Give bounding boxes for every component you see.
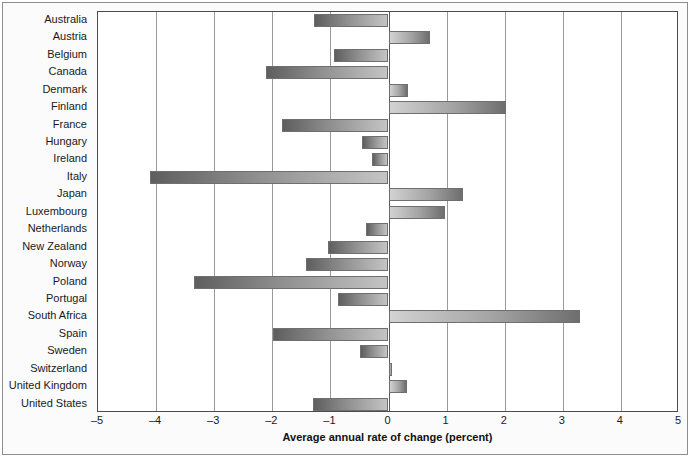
category-label-denmark: Denmark [42,81,87,98]
x-tick-label-5: 5 [658,414,692,426]
bar-south-africa [389,310,580,323]
bar-france [282,119,388,132]
bar-row [98,82,677,99]
category-label-finland: Finland [51,98,87,115]
bar-luxembourg [389,206,446,219]
plot-area [97,11,678,412]
category-label-portugal: Portugal [46,290,87,307]
category-label-australia: Australia [44,11,87,28]
category-label-japan: Japan [57,185,87,202]
x-tick-label--5: –5 [77,414,117,426]
category-label-switzerland: Switzerland [30,360,87,377]
bar-row [98,99,677,116]
bar-spain [273,328,389,341]
bar-row [98,47,677,64]
bar-row [98,396,677,413]
bar-finland [389,101,507,114]
bar-ireland [372,153,389,166]
x-tick-label--2: –2 [251,414,291,426]
category-axis-labels: AustraliaAustriaBelgiumCanadaDenmarkFinl… [0,11,93,412]
bar-row [98,291,677,308]
category-label-italy: Italy [67,168,87,185]
bar-row [98,274,677,291]
x-axis-title: Average annual rate of change (percent) [97,431,678,443]
bar-austria [389,31,430,44]
bar-row [98,308,677,325]
bar-row [98,29,677,46]
x-tick-label--1: –1 [309,414,349,426]
category-label-france: France [53,116,87,133]
bar-row [98,239,677,256]
bar-series [98,12,677,411]
bar-sweden [360,345,388,358]
bar-poland [194,276,388,289]
bar-row [98,221,677,238]
category-label-netherlands: Netherlands [28,220,87,237]
bar-australia [314,14,388,27]
bar-canada [266,66,389,79]
bar-belgium [334,49,389,62]
category-label-new-zealand: New Zealand [22,238,87,255]
x-tick-label-2: 2 [484,414,524,426]
bar-netherlands [366,223,389,236]
x-tick-label--3: –3 [193,414,233,426]
x-tick-label--4: –4 [135,414,175,426]
category-label-sweden: Sweden [47,342,87,359]
bar-row [98,134,677,151]
bar-switzerland [389,363,392,376]
category-label-austria: Austria [53,28,87,45]
bar-new-zealand [328,241,388,254]
bar-row [98,117,677,134]
category-label-united-kingdom: United Kingdom [9,377,87,394]
bar-row [98,326,677,343]
category-label-ireland: Ireland [53,150,87,167]
x-tick-label-0: 0 [368,414,408,426]
category-label-spain: Spain [59,325,87,342]
bar-row [98,186,677,203]
bar-row [98,169,677,186]
x-tick-label-1: 1 [426,414,466,426]
category-label-hungary: Hungary [45,133,87,150]
bar-row [98,378,677,395]
bar-row [98,151,677,168]
bar-row [98,12,677,29]
x-tick-label-3: 3 [542,414,582,426]
bar-norway [306,258,389,271]
x-tick-label-4: 4 [600,414,640,426]
bar-italy [150,171,389,184]
category-label-poland: Poland [53,273,87,290]
category-label-united-states: United States [21,395,87,412]
category-label-canada: Canada [48,63,87,80]
category-label-belgium: Belgium [47,46,87,63]
bar-row [98,343,677,360]
bar-denmark [389,84,408,97]
chart-figure: AustraliaAustriaBelgiumCanadaDenmarkFinl… [0,0,692,459]
bar-row [98,256,677,273]
bar-row [98,64,677,81]
bar-row [98,361,677,378]
bar-japan [389,188,463,201]
category-label-south-africa: South Africa [28,307,87,324]
bar-united-states [313,398,389,411]
category-label-luxembourg: Luxembourg [26,203,87,220]
value-axis-ticks: –5–4–3–2–1012345 [97,414,678,430]
bar-united-kingdom [389,380,408,393]
bar-row [98,204,677,221]
bar-hungary [362,136,388,149]
category-label-norway: Norway [50,255,87,272]
bar-portugal [338,293,389,306]
